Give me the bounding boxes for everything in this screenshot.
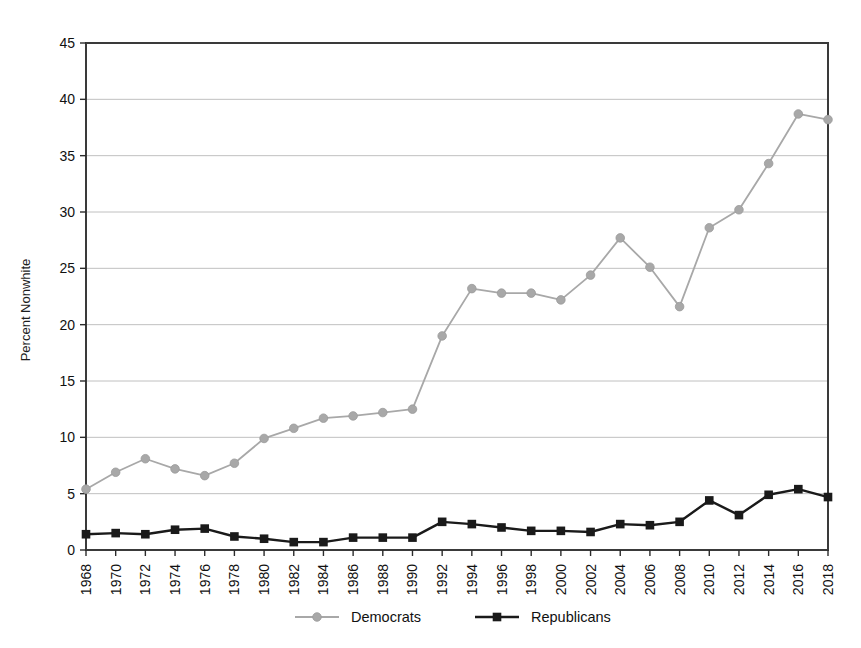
data-point-marker <box>824 115 833 124</box>
data-point-marker <box>379 408 388 417</box>
data-point-marker <box>705 223 714 232</box>
data-point-marker <box>171 465 180 474</box>
data-point-marker <box>675 302 684 311</box>
legend-marker-square <box>493 613 502 622</box>
data-point-marker <box>230 459 239 468</box>
data-point-marker <box>349 412 358 421</box>
x-tick-label: 1982 <box>286 564 302 595</box>
legend-label: Democrats <box>351 609 421 625</box>
x-tick-label: 2008 <box>672 564 688 595</box>
data-point-marker <box>794 110 803 119</box>
data-point-marker <box>438 332 447 341</box>
data-point-marker <box>824 493 833 502</box>
data-point-marker <box>735 205 744 214</box>
data-point-marker <box>794 485 803 494</box>
data-point-marker <box>468 284 477 293</box>
data-point-marker <box>497 523 506 532</box>
x-tick-label: 1980 <box>256 564 272 595</box>
x-tick-label: 1974 <box>167 564 183 595</box>
data-point-marker <box>289 538 298 547</box>
data-point-marker <box>527 527 536 536</box>
chart-container: 051015202530354045 196819701972197419761… <box>0 0 861 648</box>
data-point-marker <box>349 533 358 542</box>
data-point-marker <box>379 533 388 542</box>
x-tick-label: 2016 <box>790 564 806 595</box>
data-point-marker <box>764 159 773 168</box>
data-point-marker <box>586 271 595 280</box>
data-point-marker <box>705 496 714 505</box>
x-tick-label: 1976 <box>197 564 213 595</box>
x-tick-label: 1988 <box>375 564 391 595</box>
x-tick-label: 1998 <box>523 564 539 595</box>
data-point-marker <box>527 289 536 298</box>
x-tick-label: 2004 <box>612 564 628 595</box>
y-tick-label: 40 <box>59 91 75 107</box>
x-tick-label: 1978 <box>226 564 242 595</box>
y-tick-label: 45 <box>59 35 75 51</box>
x-tick-label: 2014 <box>761 564 777 595</box>
legend-marker-circle <box>313 613 322 622</box>
x-tick-label: 1984 <box>315 564 331 595</box>
data-point-marker <box>616 520 625 529</box>
data-point-marker <box>260 534 269 543</box>
data-point-marker <box>646 521 655 530</box>
x-tick-label: 1970 <box>108 564 124 595</box>
data-point-marker <box>408 405 417 414</box>
data-point-marker <box>586 528 595 537</box>
data-point-marker <box>111 468 120 477</box>
data-point-marker <box>438 518 447 527</box>
x-tick-label: 1972 <box>137 564 153 595</box>
x-tick-label: 1996 <box>494 564 510 595</box>
x-tick-label: 2018 <box>820 564 836 595</box>
x-tick-label: 2000 <box>553 564 569 595</box>
data-point-marker <box>289 424 298 433</box>
data-point-marker <box>646 263 655 272</box>
y-tick-label: 10 <box>59 429 75 445</box>
data-point-marker <box>735 511 744 520</box>
data-point-marker <box>319 414 328 423</box>
x-tick-label: 2012 <box>731 564 747 595</box>
x-tick-label: 2006 <box>642 564 658 595</box>
data-point-marker <box>260 434 269 443</box>
data-point-marker <box>82 485 91 494</box>
data-point-marker <box>557 296 566 305</box>
data-point-marker <box>171 525 180 534</box>
data-point-marker <box>557 527 566 536</box>
x-tick-label: 1990 <box>404 564 420 595</box>
data-point-marker <box>616 234 625 243</box>
data-point-marker <box>82 530 91 539</box>
data-point-marker <box>200 471 209 480</box>
x-tick-label: 1986 <box>345 564 361 595</box>
data-point-marker <box>141 530 150 539</box>
data-point-marker <box>468 520 477 529</box>
y-tick-label: 5 <box>67 486 75 502</box>
line-chart: 051015202530354045 196819701972197419761… <box>0 0 861 648</box>
data-point-marker <box>764 490 773 499</box>
x-tick-label: 1994 <box>464 564 480 595</box>
data-point-marker <box>200 524 209 533</box>
x-tick-label: 2002 <box>583 564 599 595</box>
data-point-marker <box>408 533 417 542</box>
x-tick-label: 1992 <box>434 564 450 595</box>
y-tick-label: 25 <box>59 260 75 276</box>
y-tick-label: 20 <box>59 317 75 333</box>
y-tick-label: 15 <box>59 373 75 389</box>
data-point-marker <box>141 454 150 463</box>
legend-label: Republicans <box>531 609 611 625</box>
x-tick-label: 2010 <box>701 564 717 595</box>
y-tick-label: 30 <box>59 204 75 220</box>
y-tick-label: 0 <box>67 542 75 558</box>
data-point-marker <box>675 518 684 527</box>
data-point-marker <box>497 289 506 298</box>
data-point-marker <box>230 532 239 541</box>
x-tick-label: 1968 <box>78 564 94 595</box>
y-axis-title: Percent Nonwhite <box>18 259 33 362</box>
data-point-marker <box>319 538 328 547</box>
y-tick-label: 35 <box>59 148 75 164</box>
data-point-marker <box>111 529 120 538</box>
